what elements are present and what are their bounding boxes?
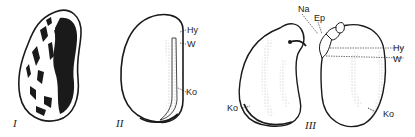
label-hy-ii: Hy	[187, 26, 198, 35]
label-hy-iii: Hy	[393, 44, 404, 53]
label-w-ii: W	[187, 40, 196, 49]
label-ko-left-iii: Ko	[227, 104, 238, 113]
figure-iii-left-cotyledon	[239, 24, 306, 127]
figure-ii-numeral: II	[116, 118, 123, 129]
figure-i-seed	[19, 10, 81, 121]
label-w-iii: W	[393, 55, 402, 64]
figure-ii-seed	[121, 15, 186, 123]
figure-i-numeral: I	[13, 118, 17, 129]
label-na-iii: Na	[298, 5, 310, 14]
label-ko-right-iii: Ko	[383, 110, 394, 119]
label-ko-ii: Ko	[186, 88, 197, 97]
figure-iii-numeral: III	[305, 120, 316, 131]
bean-diagram	[0, 0, 415, 137]
label-ep-iii: Ep	[314, 14, 325, 23]
